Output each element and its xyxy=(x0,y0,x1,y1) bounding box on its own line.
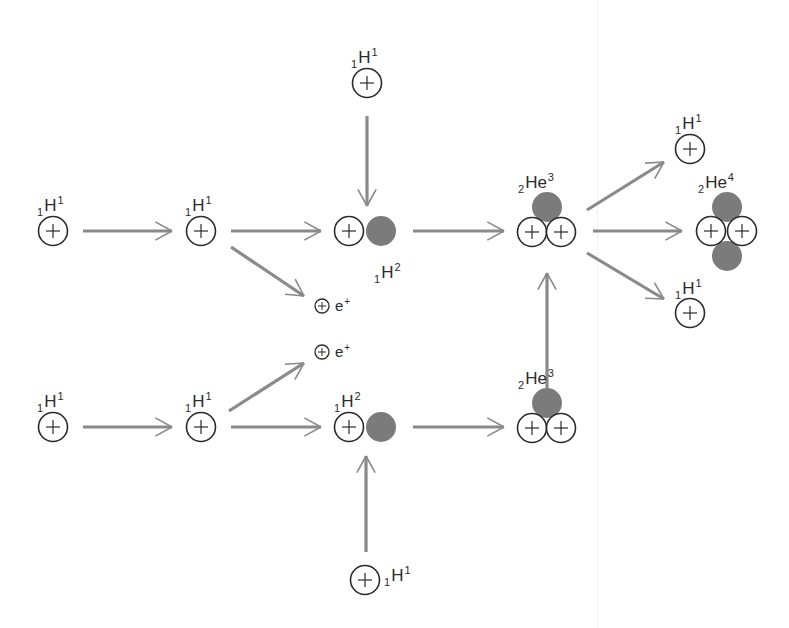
proton-icon xyxy=(697,217,726,246)
neutron-icon xyxy=(366,412,396,442)
nucleus-h1-bottom-left-b xyxy=(187,413,216,442)
nucleus-h1-top-incoming xyxy=(353,69,382,98)
isotope-label-h1-out-top: 1H1 xyxy=(675,115,702,132)
isotope-label-he3-top: 2He3 xyxy=(518,174,554,191)
proton-icon xyxy=(39,217,68,246)
proton-proton-chain-diagram xyxy=(0,0,789,628)
proton-icon xyxy=(335,217,364,246)
isotope-label-h1-top-left-b: 1H1 xyxy=(185,197,212,214)
proton-icon xyxy=(676,135,705,164)
arrow-he3-to-he4 xyxy=(593,222,682,240)
positron-bottom-icon xyxy=(315,345,329,359)
proton-icon xyxy=(335,413,364,442)
proton-icon xyxy=(353,69,382,98)
proton-icon xyxy=(518,218,547,247)
positron-bottom-label: e+ xyxy=(335,344,350,359)
arrow-to-positron-bottom xyxy=(229,363,304,411)
isotope-label-h1-top-left-a: 1H1 xyxy=(37,197,64,214)
positron-top-icon xyxy=(315,299,329,313)
proton-icon xyxy=(547,218,576,247)
nucleus-he3-bottom xyxy=(518,388,576,443)
arrow-incoming-bottom xyxy=(357,456,375,552)
proton-icon xyxy=(187,413,216,442)
arrow-he3-to-h1-out-top xyxy=(587,162,664,210)
arrow-to-positron-top xyxy=(231,247,304,296)
arrow-h2-to-he3-top xyxy=(413,222,504,240)
isotope-label-h1-out-bottom: 1H1 xyxy=(675,280,702,297)
proton-icon xyxy=(39,413,68,442)
nucleus-h1-top-left-a xyxy=(39,217,68,246)
isotope-label-h2-bottom: 1H2 xyxy=(334,393,361,410)
arrow-h2-to-he3-bottom xyxy=(413,418,504,436)
isotope-label-h2-top: 1H2 xyxy=(374,264,401,281)
arrow-incoming-top xyxy=(358,116,376,206)
proton-icon xyxy=(728,217,757,246)
isotope-label-h1-bottom-incoming: 1H1 xyxy=(384,567,411,584)
nucleus-h1-out-top xyxy=(676,135,705,164)
arrow-h1-to-h2-bottom xyxy=(231,418,321,436)
proton-icon xyxy=(351,566,380,595)
arrow-h1-to-h2-top xyxy=(231,222,321,240)
proton-icon xyxy=(187,217,216,246)
proton-icon xyxy=(547,414,576,443)
arrow-he3-to-h1-out-bottom xyxy=(587,253,664,299)
isotope-label-he3-bottom: 2He3 xyxy=(518,370,554,387)
nucleus-he4-out xyxy=(697,192,757,271)
positron-top-label: e+ xyxy=(335,298,350,313)
neutron-icon xyxy=(366,216,396,246)
proton-icon xyxy=(518,414,547,443)
nucleus-h1-out-bottom xyxy=(676,299,705,328)
isotope-label-h1-bottom-left-a: 1H1 xyxy=(37,393,64,410)
nucleus-h1-top-left-b xyxy=(187,217,216,246)
arrow-h1-to-h1-top xyxy=(83,222,172,240)
nucleus-h1-bottom-incoming xyxy=(351,566,380,595)
proton-icon xyxy=(676,299,705,328)
nucleus-h2-bottom xyxy=(335,412,397,442)
nucleus-he3-top xyxy=(518,192,576,247)
nucleus-h1-bottom-left-a xyxy=(39,413,68,442)
isotope-label-h1-top-incoming: 1H1 xyxy=(351,49,378,66)
nucleus-h2-top xyxy=(335,216,397,246)
arrow-h1-to-h1-bottom xyxy=(83,418,172,436)
isotope-label-h1-bottom-left-b: 1H1 xyxy=(185,393,212,410)
isotope-label-he4-out: 2He4 xyxy=(698,174,734,191)
